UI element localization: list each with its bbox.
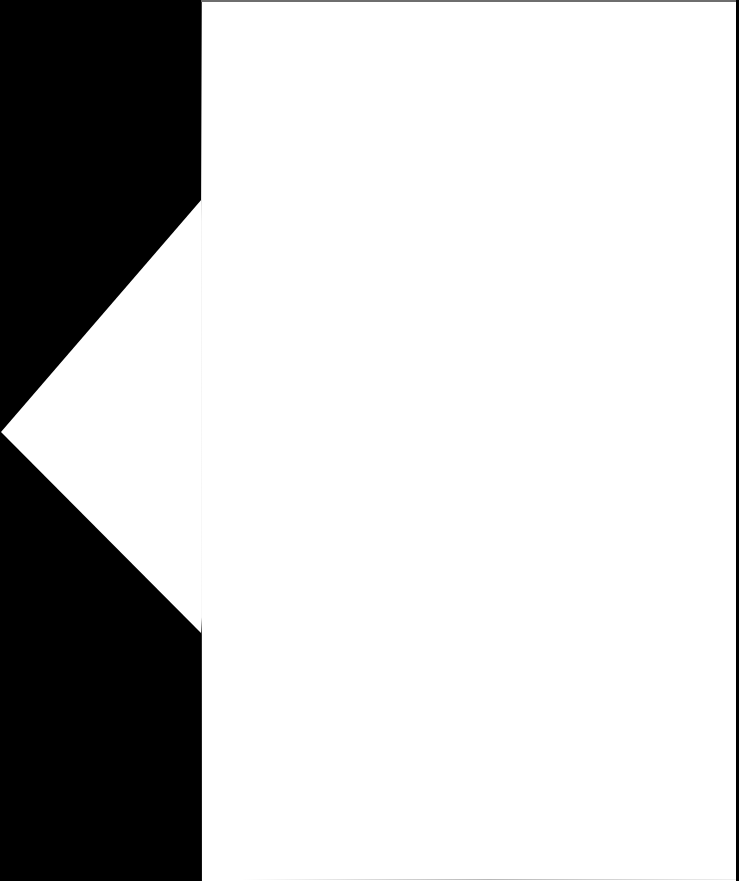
document-page	[201, 0, 736, 881]
page-bottom-edge	[241, 879, 736, 880]
page-left-edge	[201, 2, 202, 881]
previous-button[interactable]	[0, 0, 202, 881]
page-content	[201, 2, 202, 3]
image-viewer	[0, 0, 739, 881]
chevron-left-icon	[0, 0, 202, 881]
